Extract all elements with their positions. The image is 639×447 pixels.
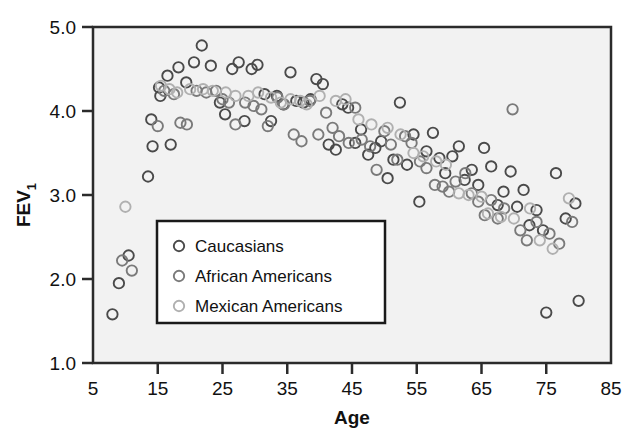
x-tick-label: 65: [471, 378, 492, 399]
x-axis-tick-labels: 51525354555657585: [88, 378, 622, 399]
fev1-vs-age-scatter-chart: 1.02.03.04.05.0 51525354555657585 FEV1 A…: [0, 0, 639, 447]
x-tick-label: 15: [147, 378, 168, 399]
y-tick-label: 1.0: [50, 353, 76, 374]
x-tick-label: 25: [212, 378, 233, 399]
y-axis-title-text: FEV: [13, 190, 34, 227]
y-tick-label: 2.0: [50, 269, 76, 290]
y-tick-label: 5.0: [50, 17, 76, 38]
x-tick-label: 45: [341, 378, 362, 399]
x-tick-label: 55: [406, 378, 427, 399]
legend-label: African Americans: [195, 267, 332, 286]
y-tick-label: 3.0: [50, 185, 76, 206]
x-tick-label: 85: [600, 378, 621, 399]
x-tick-label: 35: [277, 378, 298, 399]
legend-label: Caucasians: [195, 237, 284, 256]
x-axis-title: Age: [334, 407, 370, 428]
scatter-plot-figure: 1.02.03.04.05.0 51525354555657585 FEV1 A…: [0, 0, 639, 447]
y-tick-label: 4.0: [50, 101, 76, 122]
x-tick-label: 75: [536, 378, 557, 399]
y-axis-title-subscript: 1: [24, 183, 39, 190]
x-tick-label: 5: [88, 378, 99, 399]
legend: CaucasiansAfrican AmericansMexican Ameri…: [157, 221, 385, 323]
legend-label: Mexican Americans: [195, 297, 342, 316]
